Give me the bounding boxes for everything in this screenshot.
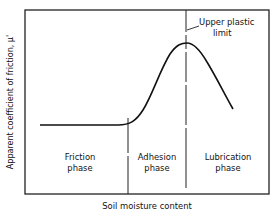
region-label-friction: Friction phase — [55, 152, 105, 174]
region-adhesion-line-2: phase — [132, 163, 182, 174]
x-axis-label: Soil moisture content — [25, 201, 269, 211]
region-lubrication-line-2: phase — [198, 163, 258, 174]
region-label-lubrication: Lubrication phase — [198, 152, 258, 174]
annotation-leader — [187, 26, 199, 30]
region-adhesion-line-1: Adhesion — [132, 152, 182, 163]
annotation-line-2: limit — [199, 28, 254, 39]
region-friction-line-2: phase — [55, 163, 105, 174]
region-label-adhesion: Adhesion phase — [132, 152, 182, 174]
region-lubrication-line-1: Lubrication — [198, 152, 258, 163]
y-axis-label: Apparent coefficient of friction, μ' — [6, 10, 15, 194]
friction-curve — [40, 43, 233, 125]
annotation-line-1: Upper plastic — [199, 17, 254, 28]
region-friction-line-1: Friction — [55, 152, 105, 163]
annotation-upper-plastic-limit: Upper plastic limit — [199, 17, 254, 39]
